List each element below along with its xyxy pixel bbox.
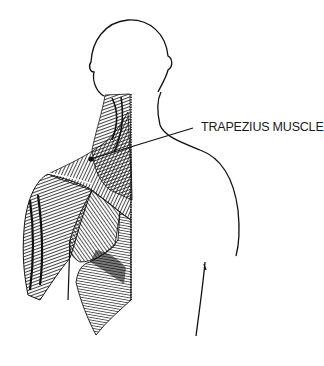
head-outline <box>90 20 172 96</box>
callout-dot <box>88 156 93 161</box>
body-outline-right <box>158 92 239 256</box>
trapezius-label: TRAPEZIUS MUSCLE <box>201 120 324 134</box>
body-outline-lower <box>196 262 206 336</box>
